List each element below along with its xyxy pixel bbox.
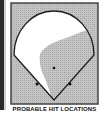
- baseball-field-diagram: [10, 2, 99, 105]
- pitcher-mound-marker: [53, 67, 56, 70]
- figure-caption: PROBABLE HIT LOCATIONS: [10, 106, 99, 112]
- third-base-marker: [36, 83, 39, 86]
- first-base-marker: [69, 83, 72, 86]
- left-edge-strip-light: [4, 0, 6, 110]
